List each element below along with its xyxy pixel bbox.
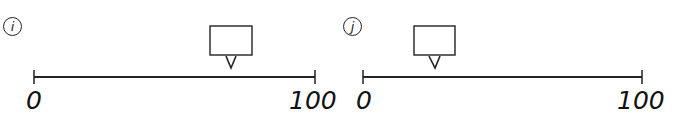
number-line-panel-i: i 0 100 bbox=[0, 0, 340, 116]
max-label: 100 bbox=[289, 88, 337, 113]
min-label: 0 bbox=[356, 88, 372, 113]
min-label: 0 bbox=[26, 88, 42, 113]
max-label: 100 bbox=[617, 88, 665, 113]
number-line-panel-j: j 0 100 bbox=[340, 0, 681, 116]
answer-box-marker[interactable] bbox=[414, 26, 455, 68]
answer-box-marker[interactable] bbox=[210, 26, 252, 68]
